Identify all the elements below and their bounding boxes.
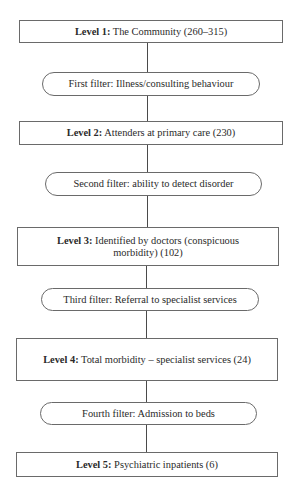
- level-3-text: Identified by doctors (conspicuous morbi…: [92, 235, 239, 258]
- connector-filter1-level2: [147, 96, 148, 121]
- level-1-label: Level 1:: [75, 26, 111, 37]
- level-4-text: Total morbidity – specialist services (2…: [79, 354, 251, 365]
- level-5-box: Level 5: Psychiatric inpatients (6): [16, 452, 278, 477]
- level-2-box: Level 2: Attenders at primary care (230): [19, 121, 283, 145]
- fourth-filter-box: Fourth filter: Admission to beds: [40, 402, 257, 425]
- connector-level1-filter1: [147, 42, 148, 72]
- level-5-text: Psychiatric inpatients (6): [112, 459, 218, 470]
- connector-filter3-level4: [146, 310, 147, 338]
- connector-filter4-level5: [146, 425, 147, 452]
- level-1-text: The Community (260–315): [110, 26, 227, 37]
- level-2-text: Attenders at primary care (230): [102, 127, 235, 138]
- third-filter-text: Third filter: Referral to specialist ser…: [63, 294, 236, 306]
- fourth-filter-text: Fourth filter: Admission to beds: [82, 408, 215, 420]
- level-1-box: Level 1: The Community (260–315): [19, 20, 283, 43]
- level-3-box: Level 3: Identified by doctors (conspicu…: [17, 227, 279, 266]
- level-2-label: Level 2:: [67, 127, 103, 138]
- level-5-label: Level 5:: [76, 459, 112, 470]
- third-filter-box: Third filter: Referral to specialist ser…: [41, 288, 259, 311]
- first-filter-text: First filter: Illness/consulting behavio…: [69, 78, 234, 90]
- second-filter-text: Second filter: ability to detect disorde…: [73, 178, 233, 190]
- connector-level2-filter2: [147, 144, 148, 172]
- level-4-label: Level 4:: [43, 354, 79, 365]
- level-4-box: Level 4: Total morbidity – specialist se…: [16, 338, 278, 381]
- second-filter-box: Second filter: ability to detect disorde…: [45, 172, 262, 196]
- connector-filter2-level3: [147, 196, 148, 227]
- connector-level3-filter3: [146, 265, 147, 288]
- connector-level4-filter4: [146, 380, 147, 402]
- first-filter-box: First filter: Illness/consulting behavio…: [42, 72, 260, 96]
- level-3-label: Level 3:: [57, 235, 93, 246]
